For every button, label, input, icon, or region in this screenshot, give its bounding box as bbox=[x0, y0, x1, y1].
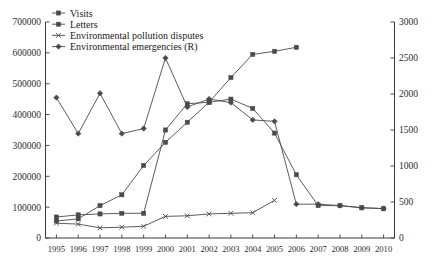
x-axis-tick-label: 1998 bbox=[113, 244, 130, 254]
data-point-environmental-emergencies-r bbox=[54, 95, 59, 100]
x-axis-tick-label: 2000 bbox=[157, 244, 174, 254]
left-axis-tick-label: 500000 bbox=[13, 79, 42, 89]
data-point-visits bbox=[251, 106, 255, 110]
data-point-environmental-emergencies-r bbox=[76, 131, 81, 136]
data-point-visits bbox=[272, 131, 276, 135]
data-point-letters bbox=[294, 45, 298, 49]
x-axis-tick-label: 2001 bbox=[179, 244, 196, 254]
legend-marker-1 bbox=[56, 22, 60, 26]
data-point-visits bbox=[185, 120, 189, 124]
x-axis-tick-label: 2009 bbox=[353, 244, 370, 254]
data-point-visits bbox=[76, 217, 80, 221]
legend-label-1: Letters bbox=[70, 19, 98, 30]
data-point-environmental-emergencies-r bbox=[141, 126, 146, 131]
data-point-environmental-emergencies-r bbox=[294, 201, 299, 206]
x-axis-tick-label: 2007 bbox=[310, 244, 328, 254]
series-line-environmental-emergencies-r bbox=[56, 58, 383, 208]
legend-label-3: Environmental emergencies (R) bbox=[70, 41, 198, 53]
data-point-letters bbox=[120, 211, 124, 215]
x-axis-tick-label: 1997 bbox=[91, 244, 109, 254]
data-point-environmental-emergencies-r bbox=[272, 119, 277, 124]
data-point-letters bbox=[76, 213, 80, 217]
data-point-environmental-emergencies-r bbox=[119, 131, 124, 136]
right-axis-tick-label: 3000 bbox=[399, 17, 418, 27]
data-point-visits bbox=[142, 163, 146, 167]
data-point-visits bbox=[54, 219, 58, 223]
data-point-letters bbox=[251, 52, 255, 56]
data-point-letters bbox=[54, 215, 58, 219]
data-point-letters bbox=[272, 49, 276, 53]
x-axis-tick-label: 2002 bbox=[201, 244, 218, 254]
data-point-environmental-emergencies-r bbox=[163, 55, 168, 60]
data-point-letters bbox=[142, 211, 146, 215]
data-point-letters bbox=[229, 75, 233, 79]
dual-axis-line-chart: 0100000200000300000400000500000600000700… bbox=[0, 0, 434, 268]
legend-label-0: Visits bbox=[70, 8, 93, 19]
x-axis-tick-label: 1999 bbox=[135, 244, 152, 254]
left-axis-tick-label: 600000 bbox=[13, 48, 42, 58]
right-axis-tick-label: 1500 bbox=[399, 125, 418, 135]
x-axis-tick-label: 1996 bbox=[70, 244, 88, 254]
x-axis-tick-label: 2003 bbox=[222, 244, 239, 254]
left-axis-tick-label: 300000 bbox=[13, 141, 42, 151]
right-axis-tick-label: 2500 bbox=[399, 53, 418, 63]
data-point-environmental-pollution-disputes bbox=[272, 198, 277, 203]
x-axis-tick-label: 2004 bbox=[244, 244, 262, 254]
x-axis-tick-label: 2006 bbox=[288, 244, 306, 254]
data-point-letters bbox=[98, 212, 102, 216]
left-axis-tick-label: 0 bbox=[36, 233, 41, 243]
right-axis-tick-label: 0 bbox=[399, 233, 404, 243]
x-axis-tick-label: 2010 bbox=[375, 244, 392, 254]
left-axis-tick-label: 400000 bbox=[13, 110, 42, 120]
series-line-visits bbox=[56, 99, 383, 221]
x-axis-tick-label: 2005 bbox=[266, 244, 283, 254]
data-point-visits bbox=[163, 140, 167, 144]
left-axis-tick-label: 700000 bbox=[13, 17, 42, 27]
data-point-visits bbox=[294, 173, 298, 177]
legend-marker-3 bbox=[56, 44, 61, 49]
x-axis-tick-label: 1995 bbox=[48, 244, 65, 254]
right-axis-tick-label: 500 bbox=[399, 197, 414, 207]
data-point-visits bbox=[120, 193, 124, 197]
legend-label-2: Environmental pollution disputes bbox=[70, 30, 203, 41]
right-axis-tick-label: 2000 bbox=[399, 89, 418, 99]
left-axis-tick-label: 100000 bbox=[13, 203, 42, 213]
data-point-letters bbox=[163, 128, 167, 132]
right-axis-tick-label: 1000 bbox=[399, 161, 418, 171]
left-axis-tick-label: 200000 bbox=[13, 172, 42, 182]
legend-marker-0 bbox=[56, 11, 60, 15]
data-point-environmental-emergencies-r bbox=[97, 91, 102, 96]
data-point-visits bbox=[98, 204, 102, 208]
x-axis-tick-label: 2008 bbox=[331, 244, 348, 254]
chart-canvas: 0100000200000300000400000500000600000700… bbox=[0, 0, 434, 268]
